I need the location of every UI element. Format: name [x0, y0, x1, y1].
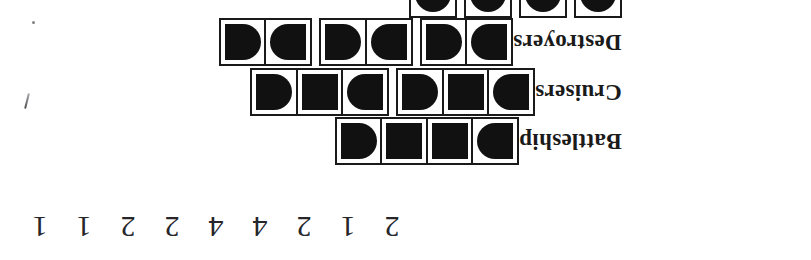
ship-destroyer-3 — [219, 18, 313, 66]
ship-cell — [296, 68, 344, 116]
column-clue: 2 — [106, 212, 150, 242]
column-clue: 1 — [62, 212, 106, 242]
column-clue: 4 — [194, 212, 238, 242]
ship-peg-middle-icon — [432, 123, 468, 159]
ship-submarine-4 — [409, 0, 457, 18]
ship-peg-bow-icon — [477, 123, 513, 159]
ship-peg-round-icon — [470, 0, 506, 12]
fleet-row-label-cruisers: Cruisers — [535, 81, 622, 104]
ship-cell — [250, 68, 298, 116]
ship-cell — [396, 68, 444, 116]
ship-destroyer-1 — [420, 18, 514, 66]
ship-cell — [519, 0, 567, 18]
ship-battleship-1 — [335, 117, 520, 165]
column-clue: 2 — [282, 212, 326, 242]
ship-peg-middle-icon — [302, 74, 338, 110]
ship-peg-bow-icon — [371, 24, 407, 60]
fleet-row-destroyers: Destroyers — [219, 18, 640, 66]
ship-peg-bow-icon — [347, 74, 383, 110]
ship-cell — [465, 18, 513, 66]
ship-cruiser-1 — [396, 68, 535, 116]
ship-cell — [471, 117, 519, 165]
ship-cell — [574, 0, 622, 18]
ship-cell — [319, 18, 367, 66]
scan-speck-dot — [32, 21, 35, 24]
ship-submarine-2 — [519, 0, 567, 18]
ship-cell — [219, 18, 267, 66]
ship-peg-stern-icon — [256, 74, 292, 110]
ship-peg-stern-icon — [325, 24, 361, 60]
ship-destroyer-2 — [319, 18, 413, 66]
ship-cell — [341, 68, 389, 116]
ship-peg-stern-icon — [341, 123, 377, 159]
ship-peg-bow-icon — [471, 24, 507, 60]
column-clue: 1 — [326, 212, 370, 242]
ship-cell — [442, 68, 490, 116]
fleet-row-battleship: Battleship — [335, 117, 640, 165]
ship-cruiser-2 — [250, 68, 389, 116]
ship-cell — [426, 117, 474, 165]
ship-cell — [420, 18, 468, 66]
ship-cell — [487, 68, 535, 116]
ship-peg-stern-icon — [402, 74, 438, 110]
column-clue-strip: 2 1 2 4 4 2 2 1 1 — [18, 212, 414, 242]
column-clue: 4 — [238, 212, 282, 242]
ship-cell — [409, 0, 457, 18]
ship-cell — [365, 18, 413, 66]
ship-peg-stern-icon — [426, 24, 462, 60]
fleet-row-submarines — [409, 0, 640, 18]
ship-peg-stern-icon — [225, 24, 261, 60]
ship-peg-middle-icon — [448, 74, 484, 110]
column-clue: 2 — [370, 212, 414, 242]
ship-cell — [380, 117, 428, 165]
ship-submarine-1 — [574, 0, 622, 18]
fleet-row-label-battleship: Battleship — [519, 130, 622, 153]
ship-submarine-3 — [464, 0, 512, 18]
column-clue: 1 — [18, 212, 62, 242]
ship-peg-bow-icon — [493, 74, 529, 110]
ship-peg-round-icon — [580, 0, 616, 12]
ship-cell — [464, 0, 512, 18]
ship-peg-round-icon — [525, 0, 561, 12]
scanned-page: Destroyers Cruisers — [0, 0, 811, 260]
ship-peg-middle-icon — [386, 123, 422, 159]
ship-cell — [335, 117, 383, 165]
ship-peg-round-icon — [415, 0, 451, 12]
ship-peg-bow-icon — [270, 24, 306, 60]
ship-cell — [264, 18, 312, 66]
fleet-row-cruisers: Cruisers — [250, 68, 640, 116]
column-clue: 2 — [150, 212, 194, 242]
fleet-row-label-destroyers: Destroyers — [513, 31, 622, 54]
